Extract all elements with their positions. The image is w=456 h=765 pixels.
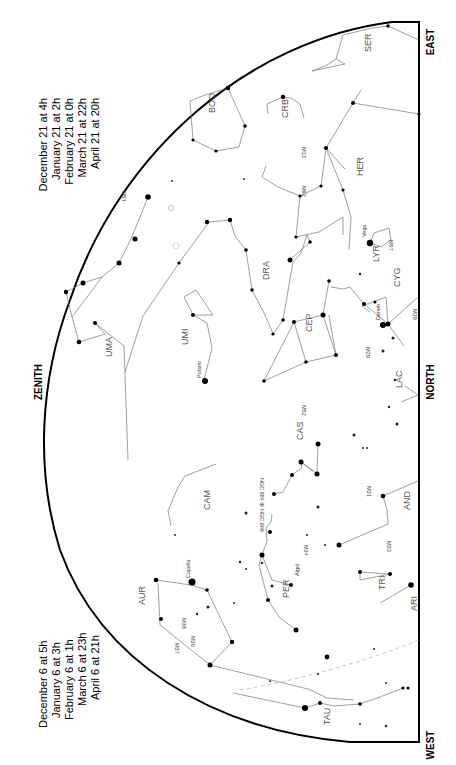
- name-capella: Capella: [185, 558, 191, 578]
- name-algol: Algol: [294, 564, 300, 576]
- obj-m13: M13: [301, 147, 307, 158]
- label-cyg: CYG: [392, 267, 402, 287]
- constellation-labels: SER BOO CRB HER LYR CYG DRA UMI UMA CEP …: [104, 33, 419, 725]
- obj-m31: M31: [366, 486, 372, 497]
- time-bottom-0: December 6 at 5h: [37, 641, 49, 728]
- ecliptic: [240, 640, 419, 690]
- pleiades: [325, 655, 330, 660]
- label-zenith: ZENITH: [33, 364, 44, 400]
- label-north: NORTH: [425, 364, 436, 400]
- label-uma: UMA: [104, 337, 114, 357]
- star-chart: December 21 at 4h January 21 at 2h Febru…: [0, 0, 456, 765]
- obj-m52: M52: [301, 405, 307, 416]
- label-and: AND: [402, 490, 412, 510]
- label-boo: BOO: [207, 93, 217, 113]
- label-her: HER: [355, 156, 365, 176]
- label-ser: SER: [363, 33, 373, 52]
- time-top-3: March 21 at 22h: [76, 98, 88, 178]
- obj-m38: M38: [181, 618, 187, 629]
- time-top-0: December 21 at 4h: [37, 98, 49, 192]
- time-top-1: January 21 at 2h: [50, 98, 62, 180]
- time-bottom-1: January 6 at 3h: [50, 642, 62, 718]
- label-east: EAST: [425, 29, 436, 56]
- label-aur: AUR: [137, 585, 147, 605]
- time-top-4: April 21 at 20h: [89, 98, 101, 169]
- label-tri: TRI: [377, 576, 387, 591]
- label-cas: CAS: [295, 421, 305, 440]
- time-bottom-3: March 6 at 23h: [76, 633, 88, 706]
- obj-m33: M33: [386, 541, 392, 552]
- times-bottom: December 6 at 5h January 6 at 3h Februar…: [37, 633, 101, 728]
- label-cam: CAM: [202, 490, 212, 510]
- name-deneb: Deneb: [375, 304, 381, 320]
- time-top-2: February 21 at 0h: [63, 98, 75, 185]
- obj-ngc: NGC 884 ⊕ NGC 869: [259, 478, 265, 532]
- constellation-lines: [66, 26, 419, 708]
- faint-stars: [171, 99, 399, 727]
- obj-m34: M34: [303, 545, 309, 556]
- capella-star: [189, 579, 196, 586]
- obj-m51: M51: [121, 191, 127, 202]
- label-lyr: LYR: [371, 245, 381, 262]
- label-cep: CEP: [304, 313, 314, 332]
- label-lac: LAC: [394, 370, 404, 388]
- name-polaris: Polaris: [196, 361, 202, 378]
- deep-sky-objects: M13 M92 M51 M57 M39 M29 M52 NGC 884 ⊕ NG…: [121, 147, 418, 654]
- obj-m92: M92: [301, 186, 307, 197]
- obj-m57: M57: [388, 240, 394, 251]
- obj-m29: M29: [365, 347, 371, 358]
- label-west: WEST: [425, 731, 436, 760]
- name-vega: Vega: [361, 224, 367, 237]
- aldebaran-star: [302, 705, 308, 711]
- deneb-star: [380, 322, 386, 328]
- stars: [64, 24, 421, 711]
- label-crb: CRB: [280, 99, 290, 118]
- label-tau: TAU: [322, 708, 332, 725]
- polaris-star: [202, 378, 208, 384]
- label-ari: ARI: [409, 596, 419, 611]
- times-top: December 21 at 4h January 21 at 2h Febru…: [37, 98, 101, 192]
- time-bottom-2: February 6 at 1h: [63, 639, 75, 720]
- label-umi: UMI: [180, 329, 190, 346]
- obj-m36: M36: [190, 636, 196, 647]
- obj-m37: M37: [174, 643, 180, 654]
- star-names: Vega Deneb Polaris Capella Algol: [185, 224, 381, 578]
- time-bottom-4: April 6 at 21h: [89, 635, 101, 700]
- label-per: PER: [281, 579, 291, 598]
- label-dra: DRA: [261, 261, 271, 280]
- obj-m39: M39: [412, 309, 418, 320]
